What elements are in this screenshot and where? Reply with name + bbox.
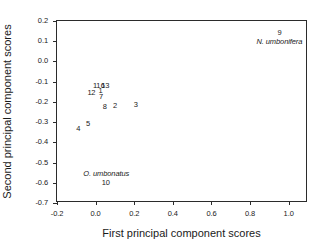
y-tick-mark: -0.5 [53,163,57,164]
data-point-label: 2 [113,102,117,110]
data-point-label: 7 [99,93,103,101]
x-tick-label: 0.8 [245,210,255,218]
y-tick-label: -0.3 [35,118,48,126]
x-tick-label: 0.0 [91,210,101,218]
x-tick-mark: 0.4 [173,201,174,205]
x-tick-label: -0.2 [51,210,64,218]
data-point-label: 13 [101,82,109,90]
y-tick-label: -0.5 [35,159,48,167]
y-tick-mark: -0.2 [53,102,57,103]
scatter-plot-figure: Second principal component scores 0.20.1… [0,0,323,252]
species-annotation: N. umbonifera [257,38,303,46]
y-tick-mark: -0.4 [53,142,57,143]
y-tick-mark: 0.0 [53,61,57,62]
y-tick-label: -0.4 [35,139,48,147]
x-tick-mark: 1.0 [289,201,290,205]
x-axis-title-text: First principal component scores [102,227,260,239]
data-point-label: 5 [86,120,90,128]
y-tick-mark: 0.1 [53,41,57,42]
y-tick-mark: -0.1 [53,82,57,83]
data-point-label: 3 [134,101,138,109]
x-tick-label: 1.0 [284,210,294,218]
y-axis-title-text: Second principal component scores [2,24,13,198]
x-tick-label: 0.6 [206,210,216,218]
data-point-label: 12 [87,90,95,98]
x-tick-mark: -0.2 [57,201,58,205]
y-tick-label: 0.0 [38,58,48,66]
y-tick-label: -0.1 [35,78,48,86]
y-tick-label: -0.6 [35,179,48,187]
y-axis-title: Second principal component scores [0,20,14,202]
x-tick-mark: 0.6 [211,201,212,205]
y-tick-label: 0.2 [38,17,48,25]
species-annotation: O. umbonatus [83,171,129,179]
data-point-label: 10 [102,179,110,187]
data-point-label: 4 [76,126,80,134]
data-point-label: 8 [103,104,107,112]
x-tick-label: 0.2 [129,210,139,218]
x-tick-mark: 0.8 [250,201,251,205]
y-tick-label: -0.2 [35,98,48,106]
y-tick-mark: -0.3 [53,122,57,123]
x-tick-label: 0.4 [168,210,178,218]
x-tick-mark: 0.2 [134,201,135,205]
y-tick-label: 0.1 [38,37,48,45]
x-tick-mark: 0.0 [96,201,97,205]
plot-area: 0.20.10.0-0.1-0.2-0.3-0.4-0.5-0.6-0.7 -0… [56,20,307,202]
y-tick-label: -0.7 [35,199,48,207]
y-tick-mark: -0.6 [53,183,57,184]
x-axis-title: First principal component scores [56,228,307,239]
y-tick-mark: 0.2 [53,21,57,22]
